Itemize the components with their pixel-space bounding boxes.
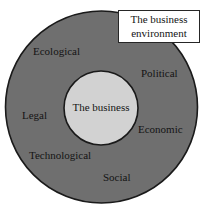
factor-label-political: Political: [141, 68, 178, 79]
core-label: The business: [64, 102, 138, 113]
factor-label-social: Social: [103, 172, 131, 183]
factor-label-technological: Technological: [29, 150, 91, 161]
factor-label-ecological: Ecological: [33, 46, 80, 57]
diagram-canvas: The business Ecological Political Legal …: [0, 0, 205, 215]
environment-callout-box: The business environment: [118, 10, 200, 43]
environment-callout-line2: environment: [131, 27, 187, 40]
environment-callout-line1: The business: [130, 13, 187, 26]
factor-label-legal: Legal: [22, 110, 47, 121]
factor-label-economic: Economic: [138, 124, 183, 135]
